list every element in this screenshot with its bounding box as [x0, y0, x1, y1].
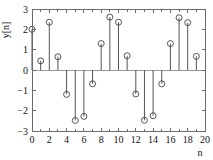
x-tick-label: 18: [183, 134, 193, 145]
y-tick-label: −1: [17, 85, 28, 96]
y-tick-label: 1: [23, 44, 28, 55]
figure-container: 02468101214161820 −3−2−10123 n y[n]: [0, 0, 213, 160]
x-tick-label: 0: [30, 134, 35, 145]
x-tick-label: 14: [148, 134, 158, 145]
x-tick-label: 10: [114, 134, 124, 145]
y-tick-label: 3: [23, 4, 28, 15]
x-tick-label: 12: [131, 134, 141, 145]
y-tick-label: 2: [23, 24, 28, 35]
x-tick-label: 8: [99, 134, 104, 145]
x-tick-label: 16: [165, 134, 175, 145]
x-tick-label: 6: [81, 134, 86, 145]
y-tick-label: 0: [23, 65, 28, 76]
y-axis-label: y[n]: [0, 22, 11, 39]
x-tick-label: 4: [64, 134, 69, 145]
x-tick-label: 20: [200, 134, 210, 145]
y-tick-label: −3: [17, 126, 28, 137]
x-tick-label: 2: [47, 134, 52, 145]
x-axis-label: n: [198, 147, 203, 158]
y-tick-label: −2: [17, 105, 28, 116]
stem-plot: 02468101214161820 −3−2−10123 n y[n]: [0, 0, 213, 160]
